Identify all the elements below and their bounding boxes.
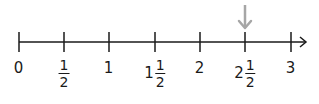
tick-label-whole: 1: [104, 61, 114, 76]
tick-label-whole: 2: [195, 61, 205, 76]
fraction-denominator: 2: [156, 74, 165, 89]
fraction-numerator: 1: [245, 58, 256, 74]
fraction-numerator: 1: [59, 58, 70, 74]
tick-label: 112: [144, 58, 165, 89]
tick-label: 0: [14, 61, 25, 76]
tick-label: 212: [234, 58, 255, 89]
tick-label-whole: 1: [144, 66, 154, 81]
tick-label: 2: [195, 61, 206, 76]
number-line-diagram: 012111222123: [0, 0, 319, 104]
fraction-denominator: 2: [60, 74, 69, 89]
tick-label-fraction: 12: [245, 58, 256, 89]
tick-label-whole: 3: [286, 61, 296, 76]
tick-label-whole: 0: [14, 61, 24, 76]
tick-label: 1: [104, 61, 115, 76]
tick-label: 3: [286, 61, 297, 76]
tick-label-fraction: 12: [155, 58, 166, 89]
tick-label: 12: [59, 58, 70, 89]
fraction-numerator: 1: [155, 58, 166, 74]
fraction-denominator: 2: [246, 74, 255, 89]
tick-label-fraction: 12: [59, 58, 70, 89]
tick-label-whole: 2: [234, 66, 244, 81]
